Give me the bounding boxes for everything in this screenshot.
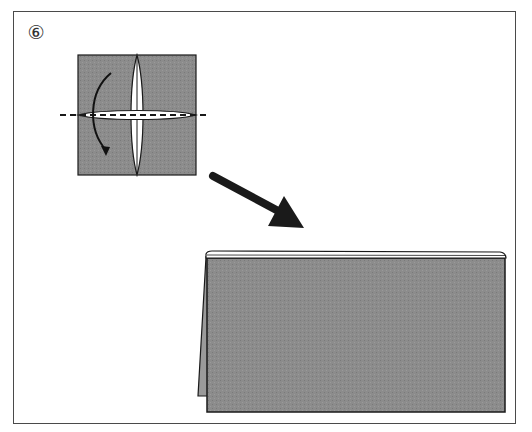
square-paper — [60, 55, 210, 175]
origami-diagram — [0, 0, 532, 432]
folded-paper-result — [198, 251, 506, 412]
transition-arrow-icon — [213, 176, 304, 228]
